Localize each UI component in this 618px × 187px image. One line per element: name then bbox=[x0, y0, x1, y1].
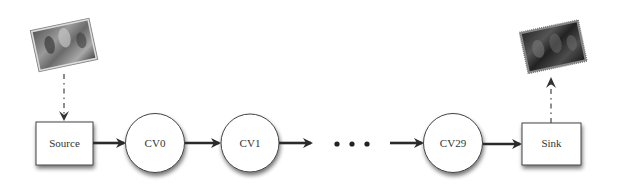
output-photo bbox=[519, 20, 586, 74]
source-label: Source bbox=[49, 137, 80, 149]
cv0-label: CV0 bbox=[145, 137, 166, 149]
cv1-label: CV1 bbox=[240, 137, 261, 149]
input-photo bbox=[30, 18, 97, 72]
sink-label: Sink bbox=[541, 137, 562, 149]
output-arrow bbox=[546, 77, 556, 123]
cv29-label: CV29 bbox=[440, 137, 467, 149]
cv29-node: CV29 bbox=[424, 114, 483, 173]
cv1-node: CV1 bbox=[221, 114, 279, 172]
cv0-node: CV0 bbox=[126, 114, 185, 173]
input-arrow bbox=[59, 74, 69, 121]
sink-node: Sink bbox=[522, 123, 581, 165]
ellipsis bbox=[334, 141, 369, 146]
source-node: Source bbox=[36, 122, 93, 165]
pipeline-diagram: Source CV0 CV1 CV29 Sink bbox=[0, 0, 618, 187]
